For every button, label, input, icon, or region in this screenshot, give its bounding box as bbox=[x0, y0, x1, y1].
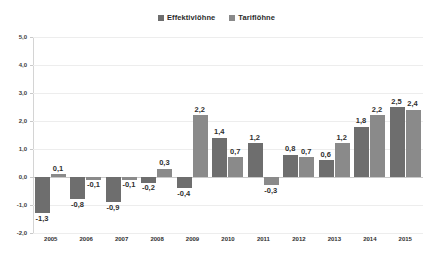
bar-effektivloehne[interactable] bbox=[141, 177, 156, 183]
bar-value-label: 0,7 bbox=[297, 148, 315, 156]
y-axis-tick-label: 2,0 bbox=[19, 118, 27, 124]
bar-effektivloehne[interactable] bbox=[35, 177, 50, 213]
bar-group: 2,52,4 bbox=[388, 37, 423, 233]
legend-label: Tariflöhne bbox=[238, 14, 275, 22]
bar-value-label: -0,9 bbox=[104, 204, 122, 212]
x-axis-tick-label: 2010 bbox=[210, 236, 246, 242]
bar-effektivloehne[interactable] bbox=[177, 177, 192, 188]
bar-chart: Effektivlöhne Tariflöhne 5,04,03,02,01,0… bbox=[0, 0, 433, 263]
bar-group: -0,9-0,1 bbox=[104, 37, 139, 233]
y-axis-labels: 5,04,03,02,01,00,0-1,0-2,0 bbox=[0, 37, 31, 233]
x-axis-tick-label: 2013 bbox=[316, 236, 352, 242]
gridline bbox=[33, 233, 423, 234]
bar-tarifloehne[interactable] bbox=[157, 169, 172, 177]
bar-value-label: -0,8 bbox=[68, 201, 86, 209]
x-axis-tick-label: 2006 bbox=[68, 236, 104, 242]
x-axis-labels: 2005200620072008200920102011201220132014… bbox=[33, 236, 423, 250]
bar-effektivloehne[interactable] bbox=[70, 177, 85, 199]
bar-tarifloehne[interactable] bbox=[370, 115, 385, 177]
bar-group: 0,80,7 bbox=[281, 37, 316, 233]
bar-effektivloehne[interactable] bbox=[212, 138, 227, 177]
bar-tarifloehne[interactable] bbox=[406, 110, 421, 177]
bar-value-label: 1,2 bbox=[333, 134, 351, 142]
chart-legend: Effektivlöhne Tariflöhne bbox=[0, 14, 433, 22]
bar-tarifloehne[interactable] bbox=[299, 157, 314, 177]
bar-effektivloehne[interactable] bbox=[354, 127, 369, 177]
bar-group: 0,61,2 bbox=[317, 37, 352, 233]
bar-group: 1,40,7 bbox=[210, 37, 245, 233]
x-axis-tick-label: 2005 bbox=[33, 236, 69, 242]
bar-tarifloehne[interactable] bbox=[264, 177, 279, 185]
bar-value-label: 0,1 bbox=[49, 165, 67, 173]
x-axis-tick-label: 2008 bbox=[139, 236, 175, 242]
bar-value-label: 0,3 bbox=[155, 159, 173, 167]
legend-swatch-icon bbox=[158, 15, 164, 21]
bar-effektivloehne[interactable] bbox=[106, 177, 121, 202]
x-axis-tick-label: 2011 bbox=[245, 236, 281, 242]
bar-group: -0,8-0,1 bbox=[68, 37, 103, 233]
y-axis-tick-label: -1,0 bbox=[17, 202, 27, 208]
bar-tarifloehne[interactable] bbox=[335, 143, 350, 177]
legend-item-tarифloehne[interactable]: Tariflöhne bbox=[229, 14, 275, 22]
bar-group: -0,20,3 bbox=[139, 37, 174, 233]
bar-value-label: -1,3 bbox=[33, 215, 51, 223]
bar-value-label: 0,6 bbox=[317, 151, 335, 159]
bar-value-label: 1,4 bbox=[210, 128, 228, 136]
bar-group: -0,42,2 bbox=[175, 37, 210, 233]
bar-group: 1,2-0,3 bbox=[246, 37, 281, 233]
bar-group: -1,30,1 bbox=[33, 37, 68, 233]
bar-effektivloehne[interactable] bbox=[283, 155, 298, 177]
bar-tarifloehne[interactable] bbox=[51, 174, 66, 177]
x-axis-tick-label: 2009 bbox=[175, 236, 211, 242]
bar-value-label: -0,2 bbox=[139, 184, 157, 192]
bar-value-label: 2,4 bbox=[404, 100, 422, 108]
y-axis-tick-label: 4,0 bbox=[19, 62, 27, 68]
x-axis-tick-label: 2012 bbox=[281, 236, 317, 242]
bar-value-label: -0,1 bbox=[84, 181, 102, 189]
bar-tarifloehne[interactable] bbox=[228, 157, 243, 177]
bar-value-label: 2,2 bbox=[368, 106, 386, 114]
y-axis-tick-label: 1,0 bbox=[19, 146, 27, 152]
bar-effektivloehne[interactable] bbox=[248, 143, 263, 177]
bar-tarifloehne[interactable] bbox=[193, 115, 208, 177]
bar-effektivloehne[interactable] bbox=[390, 107, 405, 177]
y-axis-tick bbox=[30, 233, 33, 234]
legend-label: Effektivlöhne bbox=[167, 14, 215, 22]
x-axis-tick-label: 2014 bbox=[352, 236, 388, 242]
x-axis-tick-label: 2007 bbox=[104, 236, 140, 242]
bar-value-label: -0,4 bbox=[175, 190, 193, 198]
y-axis-tick-label: -2,0 bbox=[17, 230, 27, 236]
bar-value-label: 1,2 bbox=[246, 134, 264, 142]
y-axis-tick-label: 5,0 bbox=[19, 34, 27, 40]
bar-effektivloehne[interactable] bbox=[319, 160, 334, 177]
plot-area: -1,30,1-0,8-0,1-0,9-0,1-0,20,3-0,42,21,4… bbox=[33, 37, 423, 233]
y-axis-tick-label: 0,0 bbox=[19, 174, 27, 180]
bar-value-label: -0,1 bbox=[120, 181, 138, 189]
bar-value-label: 1,8 bbox=[352, 117, 370, 125]
x-axis-tick-label: 2015 bbox=[387, 236, 423, 242]
legend-swatch-icon bbox=[229, 15, 235, 21]
bar-value-label: -0,3 bbox=[262, 187, 280, 195]
bar-value-label: 2,2 bbox=[191, 106, 209, 114]
y-axis-tick-label: 3,0 bbox=[19, 90, 27, 96]
bar-value-label: 0,7 bbox=[226, 148, 244, 156]
legend-item-effektivloehne[interactable]: Effektivlöhne bbox=[158, 14, 215, 22]
bar-group: 1,82,2 bbox=[352, 37, 387, 233]
